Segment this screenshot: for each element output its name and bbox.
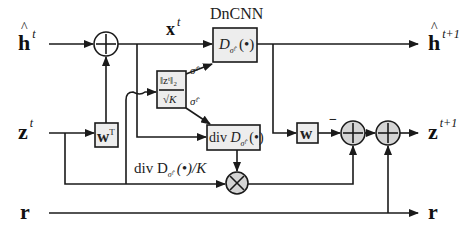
h-symbol: h: [18, 32, 30, 54]
div-over-k-annotation: div Dσ̂ᵗ (•)/K: [134, 160, 206, 179]
edge-d-to-w: [273, 44, 296, 133]
r-symbol: r: [20, 199, 30, 224]
input-h-label: ht: [18, 32, 36, 54]
z-out-symbol: z: [428, 119, 438, 144]
h-superscript: t: [32, 27, 35, 41]
w-block-label: w: [300, 124, 312, 144]
wt-superscript: T: [109, 127, 115, 137]
x-label: xt: [166, 20, 180, 38]
div-block-label: div Dσ̂ᵗ (•): [209, 130, 264, 148]
w-minus-sign: −: [329, 112, 337, 128]
sigma-denominator: √K: [163, 93, 176, 105]
input-r-label: r: [20, 201, 30, 223]
div-arg: (•): [249, 130, 263, 145]
annotation-tail: (•)/K: [177, 160, 206, 176]
output-z-label: zt+1: [428, 121, 457, 143]
div-d-symbol: D: [230, 130, 240, 145]
annotation-div: div D: [134, 160, 168, 176]
output-r-label: r: [428, 201, 438, 223]
edge-sigma-to-div: [186, 108, 210, 124]
sigma-out-bottom: σ̂ᵗ: [190, 95, 197, 107]
dncnn-title: DnCNN: [210, 6, 263, 22]
input-z-label: zt: [18, 121, 33, 143]
h-out-superscript: t+1: [442, 27, 459, 41]
d-symbol: D: [219, 36, 230, 52]
d-arg: (•): [239, 36, 254, 52]
z-superscript: t: [30, 116, 33, 130]
div-prefix: div: [209, 130, 227, 145]
div-subscript: σ̂ᵗ: [241, 139, 246, 148]
x-symbol: x: [166, 19, 175, 39]
wt-block-label: wT: [97, 127, 115, 147]
sigma-out-top: σ̂ᵗ: [190, 64, 197, 76]
annotation-sub: σ̂ᵗ: [168, 170, 173, 179]
output-h-label: ht+1: [428, 32, 460, 54]
h-out-symbol: h: [428, 32, 440, 54]
r-out-symbol: r: [428, 199, 438, 224]
d-subscript: σ̂ᵗ: [230, 46, 235, 55]
sigma-numerator: ‖zᵗ‖₂: [160, 74, 177, 86]
wt-symbol: w: [97, 127, 109, 146]
edge-mult-to-sum1: [248, 146, 353, 184]
z-symbol: z: [18, 119, 28, 144]
x-superscript: t: [177, 15, 180, 29]
z-out-superscript: t+1: [440, 116, 457, 130]
dncnn-block-label: Dσ̂ᵗ (•): [219, 36, 254, 55]
